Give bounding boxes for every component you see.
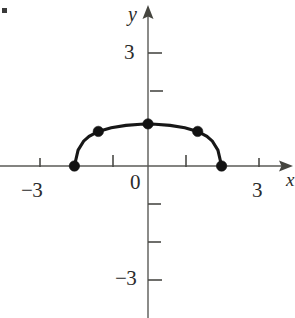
x-axis-label: x (286, 170, 294, 189)
y-axis-label: y (128, 4, 137, 24)
data-point (216, 161, 226, 171)
origin-label: 0 (130, 172, 140, 193)
data-point (143, 119, 153, 129)
x-tick-label-pos3: 3 (252, 180, 262, 201)
y-tick-label-neg3: −3 (115, 268, 136, 289)
data-point (192, 126, 202, 136)
y-tick-label-pos3: 3 (124, 42, 134, 63)
coordinate-plot (0, 0, 295, 318)
data-point (69, 161, 79, 171)
x-tick-label-neg3: −3 (21, 180, 42, 201)
graph-figure: y x 3 −3 −3 3 0 (0, 0, 295, 318)
data-point (93, 126, 103, 136)
